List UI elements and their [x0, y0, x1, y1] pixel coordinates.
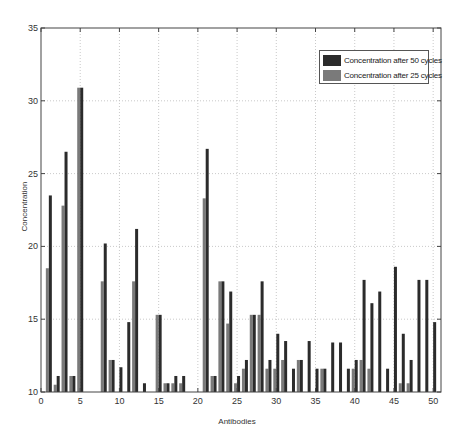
bars	[46, 88, 436, 392]
bar	[72, 376, 75, 392]
bar	[174, 376, 177, 392]
bar	[171, 383, 174, 392]
bar	[417, 280, 420, 392]
bar	[218, 281, 221, 392]
bar	[226, 324, 229, 392]
bar	[347, 369, 350, 392]
y-tick-label: 20	[28, 241, 38, 251]
bar	[258, 315, 261, 392]
bar	[80, 88, 83, 392]
x-tick-label: 25	[232, 396, 242, 406]
bar	[308, 341, 311, 392]
bar	[242, 369, 245, 392]
x-axis-label: Antibodies	[212, 417, 262, 426]
bar	[355, 360, 358, 392]
bar	[433, 322, 436, 392]
bar	[179, 383, 182, 392]
x-tick-label: 15	[154, 396, 164, 406]
x-tick-label: 35	[311, 396, 321, 406]
bar	[229, 292, 232, 392]
legend-swatch-50	[323, 55, 341, 66]
bar	[297, 360, 300, 392]
bar	[206, 149, 209, 392]
bar	[320, 369, 323, 392]
bar	[378, 292, 381, 392]
x-tick-label: 0	[38, 396, 43, 406]
x-tick-label: 40	[350, 396, 360, 406]
bar	[370, 303, 373, 392]
bar	[363, 280, 366, 392]
bar	[331, 342, 334, 392]
x-tick-label: 20	[193, 396, 203, 406]
legend-swatch-25	[323, 70, 341, 81]
bar	[127, 322, 130, 392]
bar	[284, 341, 287, 392]
bar	[135, 229, 138, 392]
legend-label: Concentration after 50 cycles	[344, 56, 442, 65]
bar	[253, 315, 256, 392]
bar	[211, 376, 214, 392]
bar	[112, 360, 115, 392]
bar	[268, 360, 271, 392]
bar	[54, 385, 57, 392]
bar	[46, 268, 49, 392]
bar	[367, 369, 370, 392]
x-tick-label: 10	[114, 396, 124, 406]
bar	[143, 383, 146, 392]
bar	[49, 195, 52, 392]
bar	[69, 376, 72, 392]
legend-item-25-cycles: Concentration after 25 cycles	[323, 68, 425, 82]
bar	[360, 360, 363, 392]
bar	[394, 267, 397, 392]
bar	[281, 360, 284, 392]
bar	[402, 334, 405, 392]
x-tick-label: 45	[389, 396, 399, 406]
y-tick-label: 30	[28, 96, 38, 106]
bar	[203, 198, 206, 392]
x-tick-label: 5	[78, 396, 83, 406]
y-tick-label: 15	[28, 314, 38, 324]
bar	[221, 281, 224, 392]
bar	[399, 383, 402, 392]
bar	[166, 383, 169, 392]
bar	[214, 376, 217, 392]
legend-item-50-cycles: Concentration after 50 cycles	[323, 53, 425, 67]
bar	[101, 281, 104, 392]
y-tick-label: 25	[28, 169, 38, 179]
bar	[109, 360, 112, 392]
bar	[163, 383, 166, 392]
y-tick-label: 10	[28, 387, 38, 397]
bar	[65, 152, 68, 392]
bar	[265, 369, 268, 392]
bar	[292, 369, 295, 392]
bar	[159, 315, 162, 392]
legend: Concentration after 50 cycles Concentrat…	[319, 50, 429, 84]
bar	[57, 376, 60, 392]
bar	[323, 369, 326, 392]
legend-label: Concentration after 25 cycles	[344, 71, 442, 80]
y-axis-label: Concentration	[20, 177, 29, 237]
bar	[276, 334, 279, 392]
x-tick-label: 50	[428, 396, 438, 406]
bar	[300, 360, 303, 392]
y-tick-label: 35	[28, 23, 38, 33]
bar	[339, 342, 342, 392]
bar	[77, 88, 80, 392]
bar	[410, 360, 413, 392]
bar	[261, 281, 264, 392]
x-tick-label: 30	[271, 396, 281, 406]
bar	[132, 281, 135, 392]
bar	[182, 376, 185, 392]
bar	[407, 383, 410, 392]
bar	[250, 315, 253, 392]
bar	[62, 206, 65, 392]
bar	[245, 360, 248, 392]
bar	[104, 243, 107, 392]
bar	[425, 280, 428, 392]
bar	[386, 369, 389, 392]
bar	[156, 315, 159, 392]
